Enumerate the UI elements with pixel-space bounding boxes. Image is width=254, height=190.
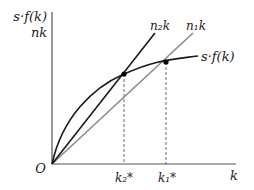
y-axis-label-sfk: s·f(k) xyxy=(13,9,47,24)
origin-label: O xyxy=(35,161,46,176)
k2star-label: k₂* xyxy=(115,171,133,185)
n1k-label: n₁k xyxy=(186,19,206,33)
k1star-label: k₁* xyxy=(158,171,176,185)
sfk-label: s·f(k) xyxy=(201,49,235,64)
n1k-line xyxy=(52,33,193,164)
steady-state-k1-point xyxy=(163,59,168,64)
x-axis-label: k xyxy=(230,168,238,183)
steady-state-k2-point xyxy=(121,71,126,76)
solow-diagram: s·f(k) nk n₂k n₁k s·f(k) O k₂* k₁* k xyxy=(0,0,254,190)
n2k-line xyxy=(52,33,155,164)
n2k-label: n₂k xyxy=(150,19,170,33)
y-axis-label-nk: nk xyxy=(31,25,47,40)
